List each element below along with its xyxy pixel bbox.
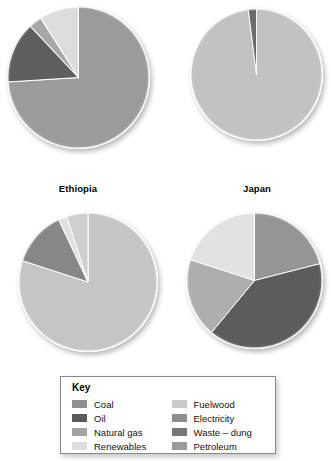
- legend-swatch-petroleum: [172, 442, 187, 450]
- pie-bottom-right-svg: [186, 212, 323, 349]
- chart-japan: [190, 8, 323, 141]
- pie-bottom-left: [18, 212, 158, 352]
- legend-label-waste-dung: Waste – dung: [194, 427, 252, 438]
- legend-label-electricity: Electricity: [194, 413, 235, 424]
- legend-label-fuelwood: Fuelwood: [194, 399, 235, 410]
- legend-title: Key: [72, 382, 275, 394]
- legend-item-fuelwood: Fuelwood: [172, 397, 275, 411]
- legend-label-oil: Oil: [94, 413, 106, 424]
- legend-column-right: Fuelwood Electricity Waste – dung Petrol…: [172, 397, 275, 453]
- pie-bottom-left-svg: [18, 212, 158, 352]
- legend-swatch-fuelwood: [172, 400, 187, 408]
- chart-label-ethiopia: Ethiopia: [0, 183, 158, 194]
- legend-item-renewables: Renewables: [72, 439, 172, 453]
- legend-item-oil: Oil: [72, 411, 172, 425]
- legend-swatch-renewables: [72, 442, 87, 450]
- legend-swatch-coal: [72, 400, 87, 408]
- legend-item-natural-gas: Natural gas: [72, 425, 172, 439]
- legend-item-petroleum: Petroleum: [172, 439, 275, 453]
- pie-japan: [190, 8, 323, 141]
- pie-ethiopia-svg: [7, 6, 150, 149]
- legend-item-coal: Coal: [72, 397, 172, 411]
- pie-ethiopia: [7, 6, 150, 149]
- legend-key-box: Key Coal Oil Natural gas Renewables: [60, 376, 276, 454]
- chart-label-japan: Japan: [177, 183, 331, 194]
- legend-label-petroleum: Petroleum: [194, 441, 237, 452]
- legend-swatch-waste-dung: [172, 428, 187, 436]
- chart-bottom-left: [18, 212, 158, 352]
- chart-bottom-right: [186, 212, 323, 349]
- legend-columns: Coal Oil Natural gas Renewables: [72, 397, 275, 453]
- legend-label-coal: Coal: [94, 399, 114, 410]
- legend-item-waste-dung: Waste – dung: [172, 425, 275, 439]
- legend-label-renewables: Renewables: [94, 441, 146, 452]
- legend-item-electricity: Electricity: [172, 411, 275, 425]
- legend-swatch-oil: [72, 414, 87, 422]
- pie-chart-figure: Ethiopia Japan Key: [0, 0, 331, 461]
- legend-label-natural-gas: Natural gas: [94, 427, 143, 438]
- pie-bottom-right: [186, 212, 323, 349]
- legend-swatch-electricity: [172, 414, 187, 422]
- legend-swatch-natural-gas: [72, 428, 87, 436]
- pie-japan-svg: [190, 8, 323, 141]
- legend-column-left: Coal Oil Natural gas Renewables: [72, 397, 172, 453]
- chart-ethiopia: [7, 6, 150, 149]
